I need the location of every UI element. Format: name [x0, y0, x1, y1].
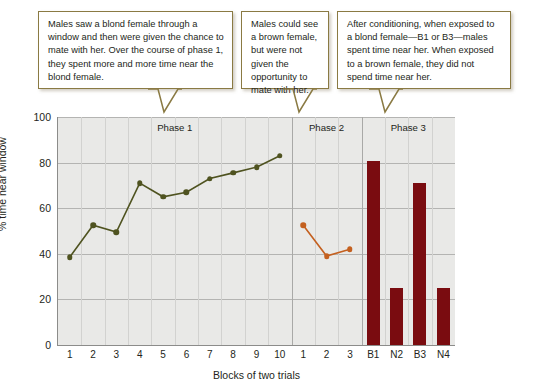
y-tick-label: 0 [0, 339, 51, 351]
y-tick-label: 100 [0, 111, 51, 123]
data-point [230, 170, 236, 176]
plot-area: Phase 1Phase 2Phase 3 [58, 117, 455, 345]
data-point [300, 223, 306, 229]
y-tick-label: 60 [0, 202, 51, 214]
y-tick-label: 20 [0, 293, 51, 305]
data-point [160, 194, 166, 200]
data-point [90, 223, 96, 229]
phase2-callout: Males could see a brown female, but were… [241, 11, 329, 89]
data-point [114, 229, 120, 235]
x-tick-label: N2 [390, 349, 403, 360]
phase3-callout-text: After conditioning, when exposed to a bl… [347, 19, 494, 82]
data-point [184, 189, 190, 195]
data-point [67, 254, 73, 260]
data-point [137, 180, 143, 186]
x-tick-label: 2 [324, 349, 330, 360]
x-tick-label: 2 [90, 349, 96, 360]
x-tick-label: 7 [207, 349, 213, 360]
phase-label: Phase 1 [157, 122, 192, 133]
x-tick-label: 5 [160, 349, 166, 360]
x-axis-label: Blocks of two trials [58, 369, 455, 381]
x-tick-label: 9 [254, 349, 260, 360]
x-tick-label: 3 [347, 349, 353, 360]
x-tick-label: 4 [137, 349, 143, 360]
data-point [347, 246, 353, 252]
y-tick-label: 80 [0, 157, 51, 169]
phase3-callout-tail [369, 88, 403, 114]
x-axis-line [58, 345, 455, 346]
data-point [277, 153, 283, 159]
x-tick-label: 6 [184, 349, 190, 360]
phase2-callout-tail [283, 88, 317, 114]
x-tick-label: 1 [300, 349, 306, 360]
data-point [254, 164, 260, 170]
x-tick-label: B1 [367, 349, 379, 360]
phase1-callout-tail [148, 88, 182, 114]
line-path [303, 225, 350, 256]
phase1-callout-text: Males saw a blond female through a windo… [48, 19, 224, 82]
phase-label: Phase 2 [309, 122, 344, 133]
data-point [207, 176, 213, 182]
y-axis-line [57, 117, 58, 346]
phase1-callout: Males saw a blond female through a windo… [38, 11, 233, 89]
x-tick-label: 3 [114, 349, 120, 360]
x-tick-label: 10 [274, 349, 285, 360]
x-tick-label: N4 [437, 349, 450, 360]
y-tick-label: 40 [0, 248, 51, 260]
phase-label: Phase 3 [391, 122, 426, 133]
x-tick-label: 8 [230, 349, 236, 360]
line-path [70, 156, 280, 257]
phase2-callout-text: Males could see a brown female, but were… [251, 19, 318, 95]
y-axis-label: % time near window [0, 137, 8, 231]
x-tick-label: 1 [67, 349, 73, 360]
x-tick-label: B3 [414, 349, 426, 360]
phase3-callout: After conditioning, when exposed to a bl… [337, 11, 511, 89]
data-point [324, 253, 330, 259]
